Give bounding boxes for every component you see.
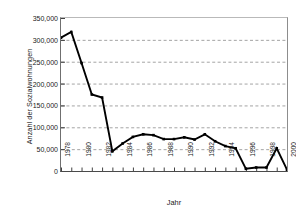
x-tick-label: 2000 <box>290 142 296 176</box>
x-tick-label: 1980 <box>85 142 92 176</box>
x-axis-tick-labels: 1978198019821984198619881990199219941996… <box>0 0 296 217</box>
x-tick-label: 1996 <box>249 142 256 176</box>
x-axis-title: Jahr <box>60 198 288 207</box>
social-housing-line-chart: Anzahl der Sozialwohnungen 350,000300,00… <box>0 0 296 217</box>
x-tick-label: 1990 <box>187 142 194 176</box>
x-tick-label: 1978 <box>64 142 71 176</box>
x-tick-label: 1988 <box>167 142 174 176</box>
x-tick-label: 1982 <box>105 142 112 176</box>
x-tick-label: 1986 <box>146 142 153 176</box>
x-tick-label: 1992 <box>208 142 215 176</box>
x-tick-label: 1998 <box>269 142 276 176</box>
x-tick-label: 1984 <box>126 142 133 176</box>
x-tick-label: 1994 <box>228 142 235 176</box>
